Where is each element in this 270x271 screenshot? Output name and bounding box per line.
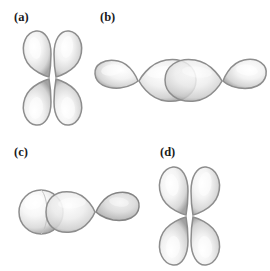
- panel-b-orbital-graphic: [98, 56, 262, 106]
- lobe-inner-right: [165, 59, 222, 101]
- panel-c-orbital-graphic: [16, 186, 140, 238]
- p-p-side-on-vertical-svg-d: [154, 164, 228, 268]
- orbital-overlap-figure: (a): [0, 0, 270, 271]
- panel-d-label: (d): [160, 146, 175, 159]
- p-p-side-on-vertical-svg: [18, 28, 90, 128]
- panel-c-label: (c): [14, 146, 28, 159]
- panel-b-label: (b): [100, 11, 115, 24]
- p-orbital-outer-lobe: [96, 192, 139, 220]
- panel-a-orbital-graphic: [18, 28, 90, 128]
- s-p-end-on-overlap-svg: [16, 186, 140, 238]
- panel-a-label: (a): [14, 11, 29, 24]
- panel-d-orbital-graphic: [154, 164, 228, 268]
- p-p-end-on-horizontal-svg: [98, 56, 262, 106]
